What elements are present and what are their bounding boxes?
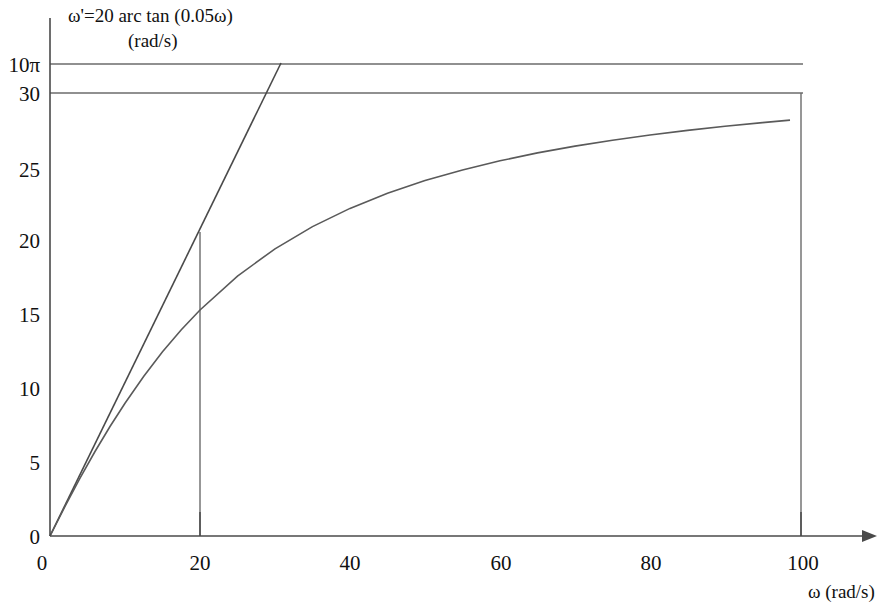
chart-canvas: ω'=20 arc tan (0.05ω) (rad/s) 0 20 40 60… bbox=[0, 0, 883, 603]
y-tick-label-30: 30 bbox=[19, 82, 40, 106]
x-tick-label-60: 60 bbox=[491, 551, 512, 575]
data-curve-arctan bbox=[50, 120, 790, 536]
x-axis-title: ω (rad/s) bbox=[808, 581, 875, 603]
x-tick-label-100: 100 bbox=[787, 551, 819, 575]
x-tick-label-0: 0 bbox=[37, 551, 48, 575]
tangent-line bbox=[50, 63, 281, 536]
x-tick-label-80: 80 bbox=[641, 551, 662, 575]
y-tick-label-5: 5 bbox=[30, 451, 41, 475]
chart-figure: ω'=20 arc tan (0.05ω) (rad/s) 0 20 40 60… bbox=[0, 0, 883, 603]
x-tick-label-40: 40 bbox=[340, 551, 361, 575]
x-tick-label-20: 20 bbox=[190, 551, 211, 575]
chart-title-line2: (rad/s) bbox=[128, 30, 178, 52]
y-tick-label-0: 0 bbox=[30, 525, 41, 549]
y-tick-label-10: 10 bbox=[19, 377, 40, 401]
chart-title-line1: ω'=20 arc tan (0.05ω) bbox=[68, 5, 233, 27]
y-tick-label-20: 20 bbox=[19, 229, 40, 253]
y-tick-label-15: 15 bbox=[19, 303, 40, 327]
y-tick-label-10pi: 10π bbox=[8, 53, 40, 77]
y-tick-label-25: 25 bbox=[19, 158, 40, 182]
x-axis-arrow-icon bbox=[862, 530, 877, 542]
